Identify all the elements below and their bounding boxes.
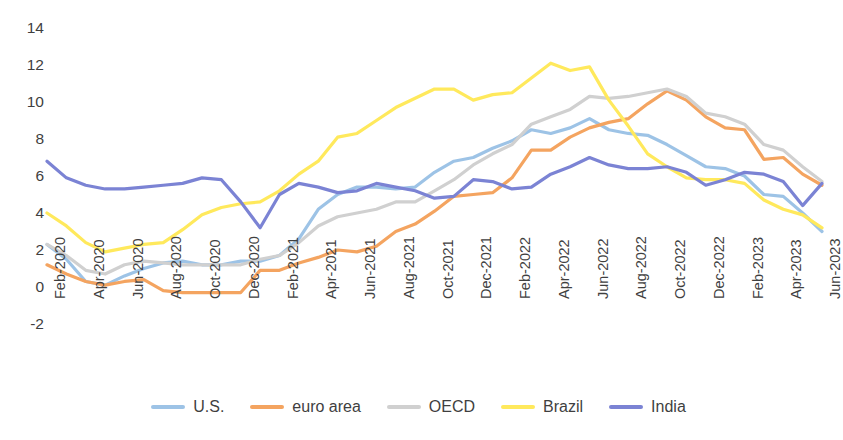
- x-axis-tick-label: Jun-2020: [131, 239, 146, 299]
- x-axis-tick-label: Dec-2021: [479, 236, 494, 299]
- x-axis-tick-label: Jun-2023: [828, 239, 843, 299]
- chart-legend: U.S.euro areaOECDBrazilIndia: [0, 390, 837, 424]
- x-axis-tick-label: Oct-2022: [673, 239, 688, 299]
- x-axis-tick-label: Oct-2021: [441, 239, 456, 299]
- x-axis-tick-label: Apr-2020: [92, 239, 107, 299]
- x-axis-tick-label: Feb-2021: [286, 237, 301, 299]
- x-axis-tick-label: Jun-2022: [596, 239, 611, 299]
- legend-swatch-icon: [151, 405, 185, 409]
- legend-swatch-icon: [609, 405, 643, 409]
- legend-swatch-icon: [387, 405, 421, 409]
- x-axis-tick-label: Feb-2022: [518, 237, 533, 299]
- legend-label: India: [651, 399, 686, 415]
- legend-item-india[interactable]: India: [609, 399, 686, 415]
- x-axis-tick-label: Aug-2020: [169, 236, 184, 299]
- legend-label: U.S.: [193, 399, 224, 415]
- legend-item-u-s[interactable]: U.S.: [151, 399, 224, 415]
- legend-swatch-icon: [250, 405, 284, 409]
- x-axis-tick-label: Apr-2022: [557, 239, 572, 299]
- x-axis-tick-label: Aug-2022: [634, 236, 649, 299]
- x-axis-tick-label: Apr-2023: [789, 239, 804, 299]
- legend-label: Brazil: [543, 399, 583, 415]
- legend-swatch-icon: [501, 405, 535, 409]
- x-axis-tick-label: Oct-2020: [208, 239, 223, 299]
- x-axis-tick-label: Dec-2022: [712, 236, 727, 299]
- x-axis-tick-label: Jun-2021: [363, 239, 378, 299]
- legend-item-euro-area[interactable]: euro area: [250, 399, 361, 415]
- x-axis-tick-label: Aug-2021: [402, 236, 417, 299]
- x-axis-tick-label: Apr-2021: [324, 239, 339, 299]
- legend-item-oecd[interactable]: OECD: [387, 399, 475, 415]
- legend-label: euro area: [292, 399, 361, 415]
- legend-label: OECD: [429, 399, 475, 415]
- legend-item-brazil[interactable]: Brazil: [501, 399, 583, 415]
- x-axis-tick-label: Feb-2023: [751, 237, 766, 299]
- x-axis-tick-label: Dec-2020: [247, 236, 262, 299]
- x-axis-tick-label: Feb-2020: [53, 237, 68, 299]
